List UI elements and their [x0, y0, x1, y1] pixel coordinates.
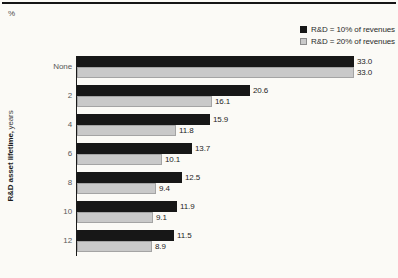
value-label-series0-12: 11.5 — [177, 230, 192, 241]
value-label-series0-10: 11.9 — [180, 201, 195, 212]
value-label-series1-6: 10.1 — [165, 154, 180, 165]
top-rule — [2, 2, 396, 4]
bar-series1-12 — [77, 241, 152, 252]
bar-series0-none — [77, 56, 354, 67]
bar-series1-6 — [77, 154, 162, 165]
bar-series1-8 — [77, 183, 156, 194]
legend-swatch-20pct — [300, 38, 307, 45]
bar-series0-8 — [77, 172, 182, 183]
legend-swatch-10pct — [300, 26, 307, 33]
legend-label-20pct: R&D = 20% of revenues — [311, 37, 395, 46]
bar-series0-4 — [77, 114, 210, 125]
legend-label-10pct: R&D = 10% of revenues — [311, 25, 395, 34]
category-label-4: 4 — [20, 119, 72, 131]
bar-series0-10 — [77, 201, 177, 212]
y-axis-title: R&D asset lifetime, years — [2, 56, 18, 256]
value-label-series0-6: 13.7 — [195, 143, 210, 154]
value-label-series1-4: 11.8 — [179, 125, 194, 136]
bar-series0-6 — [77, 143, 192, 154]
value-label-series1-12: 8.9 — [155, 241, 166, 252]
value-label-series0-8: 12.5 — [185, 172, 200, 183]
category-label-10: 10 — [20, 206, 72, 218]
value-label-series1-none: 33.0 — [357, 67, 372, 78]
exhibit-chart: % R&D = 10% of revenues R&D = 20% of rev… — [0, 0, 398, 278]
category-label-6: 6 — [20, 148, 72, 160]
y-axis-title-unit: years — [6, 110, 15, 129]
value-label-series1-8: 9.4 — [159, 183, 170, 194]
bar-series1-2 — [77, 96, 212, 107]
category-label-2: 2 — [20, 90, 72, 102]
bar-series1-4 — [77, 125, 176, 136]
value-unit-label: % — [8, 9, 15, 18]
value-label-series0-2: 20.6 — [253, 85, 268, 96]
category-label-none: None — [20, 61, 72, 73]
y-axis-title-text: R&D asset lifetime, years — [6, 110, 15, 201]
category-label-8: 8 — [20, 177, 72, 189]
bar-series1-none — [77, 67, 354, 78]
legend-item-20pct: R&D = 20% of revenues — [300, 36, 395, 46]
legend-item-10pct: R&D = 10% of revenues — [300, 24, 395, 34]
value-label-series1-2: 16.1 — [215, 96, 230, 107]
bar-series0-12 — [77, 230, 174, 241]
y-axis-title-bold: R&D asset lifetime, — [6, 131, 15, 202]
legend: R&D = 10% of revenues R&D = 20% of reven… — [300, 24, 395, 46]
category-label-12: 12 — [20, 235, 72, 247]
bar-series1-10 — [77, 212, 153, 223]
value-label-series0-none: 33.0 — [357, 56, 372, 67]
bar-series0-2 — [77, 85, 250, 96]
value-label-series1-10: 9.1 — [156, 212, 167, 223]
value-label-series0-4: 15.9 — [213, 114, 228, 125]
